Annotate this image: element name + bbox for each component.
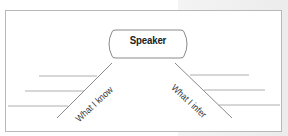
diagram-svg bbox=[0, 0, 288, 136]
speaker-node-label: Speaker bbox=[111, 34, 185, 46]
